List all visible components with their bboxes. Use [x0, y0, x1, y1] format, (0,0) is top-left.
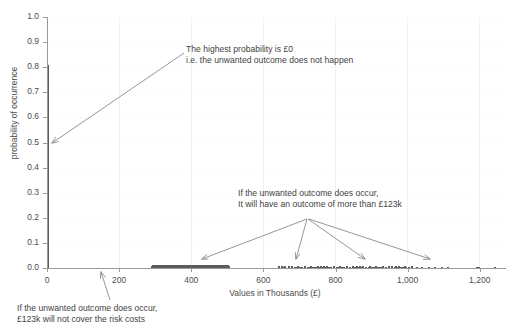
- y-tick-mark: [43, 42, 47, 43]
- annotation-line-1: If the unwanted outcome does occur,: [238, 188, 402, 199]
- gridline-vertical: [479, 17, 480, 268]
- y-tick-label: 0.0: [13, 263, 39, 272]
- x-tick-label: 800: [314, 275, 358, 285]
- y-tick-label: 0.1: [13, 238, 39, 247]
- x-axis-title: Values in Thousands (£): [160, 288, 390, 298]
- x-tick-mark: [480, 268, 481, 272]
- probability-of-occurrence-chart: 0.00.10.20.30.40.50.60.70.80.91.0 020040…: [0, 0, 521, 331]
- gridline-horizontal: [47, 42, 505, 43]
- x-tick-mark: [336, 268, 337, 272]
- gridline-horizontal: [47, 218, 505, 219]
- y-tick-mark: [43, 193, 47, 194]
- annotation-line-1: If the unwanted outcome does occur,: [17, 303, 157, 314]
- gridline-vertical: [119, 17, 120, 268]
- annotation-line-2: £123k will not cover the risk costs: [17, 314, 157, 325]
- x-tick-mark: [408, 268, 409, 272]
- y-tick-mark: [43, 218, 47, 219]
- x-tick-label: 600: [241, 275, 285, 285]
- y-tick-mark: [43, 117, 47, 118]
- gridline-horizontal: [47, 117, 505, 118]
- x-tick-label: 1,200: [458, 275, 502, 285]
- annotation-line-2: i.e. the unwanted outcome does not happe…: [186, 55, 353, 66]
- gridline-horizontal: [47, 17, 505, 18]
- x-axis-line: [47, 268, 506, 269]
- x-tick-mark: [119, 268, 120, 272]
- y-axis-title: probability of occurrence: [9, 43, 19, 183]
- y-axis-line: [47, 17, 48, 268]
- gridline-horizontal: [47, 243, 505, 244]
- gridline-horizontal: [47, 142, 505, 143]
- y-tick-mark: [43, 168, 47, 169]
- gridline-horizontal: [47, 92, 505, 93]
- annotation-line-2: It will have an outcome of more than £12…: [238, 199, 402, 210]
- y-tick-label: 0.2: [13, 213, 39, 222]
- y-tick-label: 0.3: [13, 188, 39, 197]
- x-tick-label: 200: [97, 275, 141, 285]
- x-tick-mark: [191, 268, 192, 272]
- gridline-vertical: [407, 17, 408, 268]
- x-tick-mark: [47, 268, 48, 272]
- x-tick-label: 0: [25, 275, 69, 285]
- y-tick-mark: [43, 92, 47, 93]
- annotation-zero-probability: The highest probability is £0 i.e. the u…: [186, 44, 353, 67]
- annotation-123k-not-enough: If the unwanted outcome does occur, £123…: [17, 303, 157, 326]
- x-tick-label: 1,000: [386, 275, 430, 285]
- annotation-line-1: The highest probability is £0: [186, 44, 353, 55]
- y-tick-mark: [43, 67, 47, 68]
- x-tick-mark: [263, 268, 264, 272]
- y-tick-label: 1.0: [13, 12, 39, 21]
- annotation-outcome-above-123k: If the unwanted outcome does occur, It w…: [238, 188, 402, 211]
- gridline-horizontal: [47, 67, 505, 68]
- x-tick-label: 400: [169, 275, 213, 285]
- gridline-horizontal: [47, 168, 505, 169]
- y-tick-mark: [43, 243, 47, 244]
- y-tick-mark: [43, 17, 47, 18]
- y-tick-mark: [43, 143, 47, 144]
